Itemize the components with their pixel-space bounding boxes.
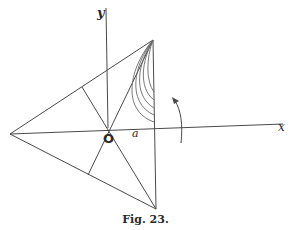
x-axis-label: x xyxy=(278,121,285,133)
diagram-canvas xyxy=(0,0,291,230)
figure-caption: Fig. 23. xyxy=(0,214,291,225)
edge-upper-left xyxy=(10,40,153,134)
origin-label: O xyxy=(103,132,114,145)
perpendicular-line-upper xyxy=(82,87,156,209)
rotation-arrow-icon xyxy=(172,97,182,143)
flow-curves xyxy=(132,40,154,122)
diagram-figure: y x a O Fig. 23. xyxy=(0,0,291,230)
edge-right xyxy=(153,40,156,209)
y-axis-label: y xyxy=(97,6,105,19)
y-axis xyxy=(106,8,108,128)
edge-lower-left xyxy=(10,134,156,209)
x-axis xyxy=(10,124,283,134)
point-a-label: a xyxy=(132,128,139,139)
